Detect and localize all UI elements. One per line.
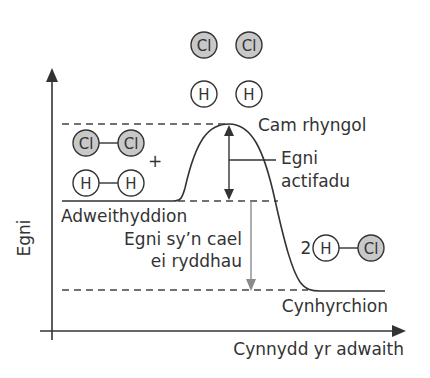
- svg-text:Cl: Cl: [197, 37, 212, 55]
- hydrogen-molecule: H H: [73, 170, 144, 196]
- activation-energy-label-1: Egni: [281, 148, 318, 168]
- svg-text:H: H: [243, 86, 254, 104]
- transition-state-label: Cam rhyngol: [258, 115, 366, 135]
- reactants-label: Adweithyddion: [61, 206, 187, 226]
- energy-released-label-1: Egni sy’n cael: [124, 229, 242, 249]
- activation-arrowhead-up: [224, 125, 234, 136]
- products-label: Cynhyrchion: [282, 296, 388, 316]
- svg-text:H: H: [198, 86, 209, 104]
- y-axis-label: Egni: [14, 219, 34, 256]
- energy-released-label-2: ei ryddhau: [151, 251, 242, 271]
- transition-state-atoms: Cl Cl H H: [191, 32, 262, 107]
- svg-text:H: H: [320, 240, 331, 258]
- svg-text:H: H: [80, 175, 91, 193]
- x-axis-arrowhead: [392, 325, 406, 337]
- svg-text:Cl: Cl: [364, 240, 379, 258]
- activation-arrowhead-down: [224, 189, 234, 200]
- y-axis-arrowhead: [46, 68, 58, 82]
- energy-profile-diagram: Egni Cynnydd yr adwaith Cam rhyngol Egni…: [0, 0, 430, 378]
- chlorine-molecule: Cl Cl: [73, 130, 144, 156]
- energy-released-arrowhead: [246, 279, 256, 291]
- svg-text:Cl: Cl: [242, 37, 257, 55]
- activation-energy-label-2: actifadu: [281, 171, 350, 191]
- svg-text:H: H: [125, 175, 136, 193]
- chlorine-atom: Cl: [191, 32, 217, 58]
- hydrogen-atom: H: [236, 81, 262, 107]
- hydrogen-atom: H: [191, 81, 217, 107]
- svg-text:Cl: Cl: [79, 135, 94, 153]
- hydrogen-chloride-molecule: H Cl: [313, 235, 384, 261]
- svg-text:Cl: Cl: [124, 135, 139, 153]
- chlorine-atom: Cl: [236, 32, 262, 58]
- plus-sign: +: [148, 151, 162, 171]
- product-coefficient: 2: [301, 238, 312, 258]
- x-axis-label: Cynnydd yr adwaith: [233, 339, 404, 359]
